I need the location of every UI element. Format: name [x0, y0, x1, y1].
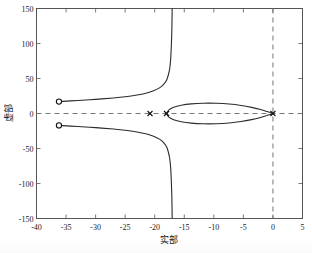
- x-tick-label: 0: [271, 223, 275, 232]
- root-locus-figure: -40-35-30-25-20-15-10-505 -150-100-50050…: [0, 0, 312, 253]
- zero-marker: [56, 99, 61, 104]
- y-tick-label: -150: [19, 215, 34, 224]
- x-tick-label: 5: [301, 223, 305, 232]
- x-axis-title: 实部: [160, 234, 178, 245]
- y-tick-label: 0: [30, 110, 34, 119]
- zero-marker: [56, 123, 61, 128]
- y-tick-label: -50: [23, 145, 34, 154]
- y-tick-label: 100: [22, 40, 34, 49]
- y-tick-label: 50: [26, 75, 34, 84]
- x-tick-label: -30: [90, 223, 101, 232]
- pole-zero-markers: [56, 99, 275, 128]
- x-tick-label: -20: [149, 223, 160, 232]
- y-axis-title: 虚部: [3, 104, 14, 122]
- x-axis-tick-labels: -40-35-30-25-20-15-10-505: [31, 223, 304, 232]
- x-tick-label: -15: [179, 223, 190, 232]
- x-tick-label: -35: [61, 223, 72, 232]
- y-axis-tick-labels: -150-100-50050100150: [19, 5, 34, 224]
- x-tick-label: -25: [120, 223, 131, 232]
- x-tick-label: -10: [208, 223, 219, 232]
- y-tick-label: 150: [22, 5, 34, 14]
- x-tick-label: -5: [240, 223, 247, 232]
- series-locus-branch-upper: [59, 9, 172, 102]
- plot-canvas: -40-35-30-25-20-15-10-505 -150-100-50050…: [0, 0, 312, 253]
- reference-lines: [37, 9, 303, 219]
- y-tick-label: -100: [19, 180, 34, 189]
- x-tick-label: -40: [31, 223, 42, 232]
- series-locus-branch-lower: [59, 125, 172, 218]
